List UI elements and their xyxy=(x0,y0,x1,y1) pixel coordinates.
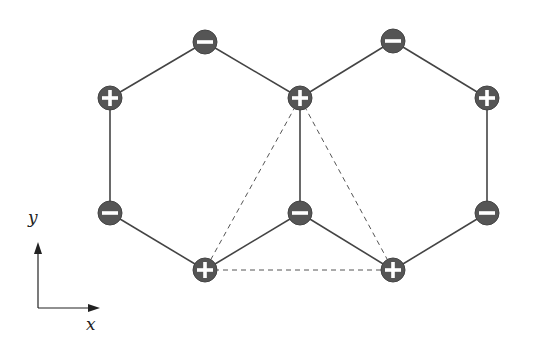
x-arrow-icon xyxy=(88,304,100,312)
bond-line xyxy=(393,41,487,98)
bond-line xyxy=(300,213,393,270)
bond-line xyxy=(110,42,205,98)
bonds xyxy=(110,41,487,270)
x-axis-label: x xyxy=(86,314,96,334)
minus-site-icon xyxy=(288,201,312,225)
bond-line xyxy=(205,42,300,98)
coordinate-axes xyxy=(34,242,100,312)
charged-sites xyxy=(98,29,499,282)
bond-line xyxy=(393,213,487,270)
y-arrow-icon xyxy=(34,242,42,254)
plus-site-icon xyxy=(98,86,122,110)
bond-line xyxy=(110,213,205,270)
plus-site-icon xyxy=(193,258,217,282)
minus-site-icon xyxy=(381,29,405,53)
dashed-line xyxy=(205,98,300,270)
minus-site-icon xyxy=(475,201,499,225)
bond-line xyxy=(205,213,300,270)
minus-site-icon xyxy=(98,201,122,225)
dashed-line xyxy=(300,98,393,270)
y-axis-label: y xyxy=(28,207,38,227)
bond-line xyxy=(300,41,393,98)
lattice-diagram xyxy=(0,0,534,352)
minus-site-icon xyxy=(193,30,217,54)
plus-site-icon xyxy=(475,86,499,110)
plus-site-icon xyxy=(288,86,312,110)
dashed-triangle xyxy=(205,98,393,270)
plus-site-icon xyxy=(381,258,405,282)
